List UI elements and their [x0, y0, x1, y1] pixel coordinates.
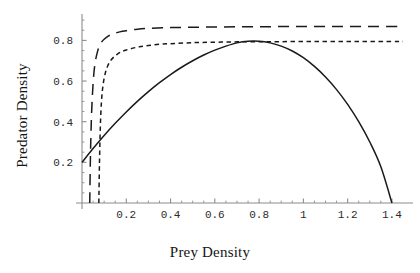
y-tick-label: 0.6 — [53, 76, 73, 88]
y-tick-label: 0.2 — [53, 157, 73, 169]
y-tick-label: 0.8 — [53, 35, 73, 47]
chart-figure: 0.20.40.60.811.21.40.20.40.60.8 Predator… — [0, 0, 420, 273]
y-tick-label: 0.4 — [53, 117, 73, 129]
x-tick-label: 1 — [300, 209, 307, 221]
x-tick-label: 1.4 — [382, 209, 402, 221]
x-tick-label: 0.8 — [249, 209, 269, 221]
x-tick-label: 0.2 — [116, 209, 136, 221]
x-tick-label: 0.4 — [161, 209, 181, 221]
x-tick-label: 0.6 — [205, 209, 225, 221]
predator-prey-plot: 0.20.40.60.811.21.40.20.40.60.8 — [0, 0, 420, 273]
x-tick-label: 1.2 — [338, 209, 358, 221]
